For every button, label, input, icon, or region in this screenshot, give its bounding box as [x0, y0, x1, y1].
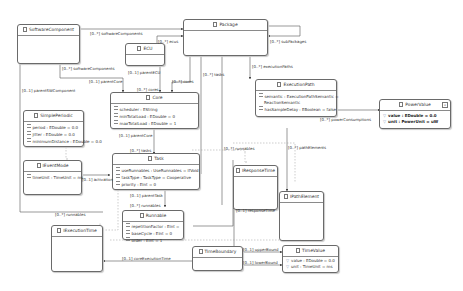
- class-icon: [399, 102, 403, 107]
- edge-label: [0..1] parentECU: [128, 70, 160, 75]
- class-power-value[interactable]: PowerValue × ▽value : EDouble = 0.0 ▽uni…: [379, 99, 451, 129]
- class-icon: [23, 27, 27, 32]
- class-execution-path[interactable]: ExecutionPath semantic : ExecutionPathSe…: [255, 79, 337, 117]
- interface-icon: [236, 168, 240, 173]
- edge-label: [0..1] parentSWComponent: [22, 88, 75, 93]
- attribute: minTotalLoad : EDouble = 0: [114, 113, 195, 120]
- edge-label: [0..1] coreExecutionTime: [122, 256, 171, 261]
- attribute: ▽unit : TimeUnit = ms: [286, 264, 335, 270]
- class-software-component[interactable]: SoftwareComponent: [17, 24, 80, 64]
- class-path-element[interactable]: IPathElement: [279, 191, 324, 241]
- interface-icon: [57, 228, 61, 233]
- class-icon: [277, 82, 281, 87]
- attribute: repetitionFactor : EInt =: [126, 223, 180, 230]
- edge-label: [0..*] executionPaths: [252, 64, 293, 69]
- edge-label: [0..1] parentCore: [119, 133, 152, 138]
- class-icon: [34, 113, 38, 118]
- class-runnable[interactable]: Runnable repetitionFactor : EInt = baseC…: [122, 210, 184, 240]
- edge-label: [0..1] lowerBound: [243, 260, 278, 265]
- class-icon: [148, 156, 152, 161]
- interface-icon: [37, 163, 41, 168]
- attribute: useRunnables : UseRunnables = IfVoid: [116, 167, 196, 174]
- class-ecu[interactable]: ECU: [125, 43, 165, 66]
- attribute: maxTotalLoad : EDouble = 1: [114, 120, 195, 127]
- collapse-icon[interactable]: ×: [442, 102, 448, 108]
- class-icon: [199, 249, 203, 254]
- attribute: taskType : TaskType = Cooperative: [116, 174, 196, 181]
- edge-label: [0..*] ecus: [158, 39, 178, 44]
- class-simple-periodic[interactable]: SimplePeriodic period : EDouble = 0.0 ji…: [23, 110, 84, 147]
- edge-label: [0..*] runnables: [130, 203, 161, 208]
- attribute: scheduler : EString: [114, 106, 195, 113]
- attribute: baseCycle : EInt = 0: [126, 230, 180, 237]
- edge-label: [0..*] runnables: [224, 146, 255, 151]
- class-time-value[interactable]: TimeValue ▽value : EDouble = 0.0 ▽unit :…: [282, 245, 339, 273]
- class-response-time[interactable]: IResponseTime: [233, 165, 278, 210]
- class-event-mode[interactable]: IEventMode timeUnit : TimeUnit = ms: [23, 160, 82, 195]
- class-icon: [213, 22, 217, 27]
- edge-label: [0..*] cores: [172, 79, 194, 84]
- edge-label: [0..*] runnables: [55, 212, 86, 217]
- attribute: jitter : EDouble = 0.0: [27, 131, 80, 138]
- class-execution-time[interactable]: IExecutionTime: [51, 225, 103, 272]
- class-icon: [137, 46, 141, 51]
- class-task[interactable]: Task useRunnables : UseRunnables = IfVoi…: [112, 153, 200, 190]
- attribute: hasSampleDelay : EBoolean = false: [259, 106, 333, 113]
- edge-label: [0..*] softwareComponents: [90, 31, 143, 36]
- edge-label: [0..1] responseTime: [236, 208, 275, 213]
- class-icon: [140, 213, 144, 218]
- interface-icon: [284, 194, 288, 199]
- edge-label: [0..*] softwareComponents: [62, 66, 115, 71]
- class-package[interactable]: Package: [183, 19, 268, 56]
- class-icon: [296, 248, 300, 253]
- attribute: minimumDistance : EDouble = 0.0: [27, 138, 80, 145]
- class-time-boundary[interactable]: TimeBoundary: [192, 246, 243, 271]
- attribute: timeUnit : TimeUnit = ms: [27, 174, 78, 181]
- edge-label: [0..1] parentCore: [89, 79, 122, 84]
- edge-label: [0..*] pathElements: [288, 145, 326, 150]
- class-core[interactable]: Core scheduler : EString minTotalLoad : …: [110, 92, 199, 129]
- attribute: order : EInt = 1: [126, 237, 180, 244]
- edge-label: [0..*] cores: [137, 87, 159, 92]
- attribute: period : EDouble = 0.0: [27, 124, 80, 131]
- attribute: semantic : ExecutionPathSemantic =: [259, 93, 333, 100]
- attribute: ▽unit : PowerUnit = uW: [383, 119, 447, 125]
- edge-label: [0..*] tasks: [203, 72, 224, 77]
- edge-label: [0..*] tasks: [130, 148, 151, 153]
- edge-label: [0..1] activation: [82, 177, 113, 182]
- attribute: priority : EInt = 0: [116, 181, 196, 188]
- edge-label: [0..1] parentTask: [130, 193, 163, 198]
- edge-label: [0..*] subPackages: [270, 39, 306, 44]
- edge-label: [0..1] upperBound: [243, 247, 279, 252]
- class-icon: [146, 95, 150, 100]
- edge-label: [0..*] powerConsumptions: [320, 117, 371, 122]
